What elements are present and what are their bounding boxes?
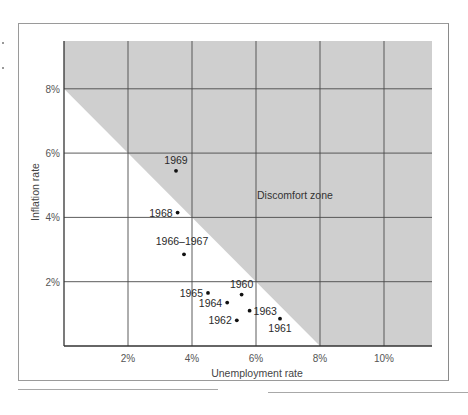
data-point-1966-1967: 1966–1967 [156, 235, 209, 256]
x-tick-label: 4% [185, 353, 200, 364]
discomfort-zone [64, 41, 432, 346]
svg-text:1966–1967: 1966–1967 [156, 235, 209, 247]
data-point-1962: 1962 [208, 314, 238, 326]
data-point-1964: 1964 [199, 297, 229, 309]
data-point-1963: 1963 [248, 305, 277, 317]
x-tick-label: 6% [249, 353, 264, 364]
y-axis-title: Inflation rate [29, 163, 41, 221]
y-tick-label: 6% [46, 148, 61, 159]
svg-text:1961: 1961 [268, 322, 292, 334]
svg-text:1963: 1963 [254, 305, 278, 317]
svg-text:1969: 1969 [164, 154, 188, 166]
discomfort-zone-shading [64, 41, 432, 346]
y-tick-label: 4% [46, 212, 61, 223]
svg-text:1962: 1962 [208, 314, 232, 326]
data-point-1961: 1961 [268, 317, 292, 334]
y-axis-ticks: 2%4%6%8% [46, 84, 61, 288]
data-point-1960: 1960 [230, 278, 254, 297]
x-tick-label: 10% [374, 353, 394, 364]
svg-text:1965: 1965 [180, 287, 204, 299]
svg-text:1968: 1968 [149, 207, 173, 219]
y-tick-label: 2% [46, 277, 61, 288]
x-axis-title: Unemployment rate [211, 367, 303, 379]
x-tick-label: 2% [121, 353, 136, 364]
y-tick-label: 8% [46, 84, 61, 95]
chart: 2%4%6%8%10% 2%4%6%8% 1960196119621963196… [0, 0, 468, 415]
x-tick-label: 8% [313, 353, 328, 364]
x-axis-ticks: 2%4%6%8%10% [121, 353, 394, 364]
data-point-1968: 1968 [149, 207, 179, 219]
discomfort-zone-label: Discomfort zone [257, 189, 333, 201]
svg-text:1960: 1960 [230, 278, 254, 290]
